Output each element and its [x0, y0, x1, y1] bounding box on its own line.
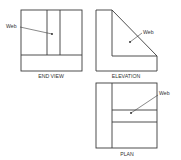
plan-view: Web PLAN	[96, 83, 170, 157]
orthographic-diagram: Web END VIEW Web ELEVATION Web PLAN	[0, 0, 181, 160]
plan-web-label: Web	[159, 90, 170, 96]
elevation-web-label: Web	[143, 29, 154, 35]
elevation-view: Web ELEVATION	[96, 10, 157, 79]
elevation-caption: ELEVATION	[112, 73, 141, 79]
plan-web-dot	[130, 112, 132, 114]
end-view-web-label: Web	[6, 23, 17, 29]
end-view-outline	[21, 10, 82, 71]
end-view-caption: END VIEW	[38, 73, 64, 79]
elevation-web-dot	[129, 41, 131, 43]
end-view: Web END VIEW	[6, 10, 82, 79]
elevation-outline	[96, 10, 157, 71]
plan-caption: PLAN	[120, 151, 134, 157]
end-view-web-dot	[51, 33, 53, 35]
plan-outline	[96, 83, 157, 148]
